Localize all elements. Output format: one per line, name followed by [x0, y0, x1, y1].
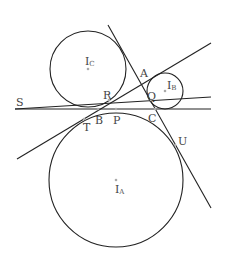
center-label-ib: IB	[167, 79, 177, 92]
point-ib	[164, 90, 167, 93]
circles-group	[49, 31, 183, 247]
label-s: S	[16, 96, 24, 109]
point-t	[83, 118, 86, 121]
point-u	[174, 144, 177, 147]
label-q: Q	[147, 90, 156, 103]
point-ia	[115, 179, 118, 182]
label-c: C	[148, 112, 156, 125]
label-u: U	[178, 135, 187, 148]
label-t: T	[83, 121, 91, 134]
geometry-diagram: SRBPTAQCU ICIBIA	[0, 0, 226, 262]
label-p: P	[113, 114, 121, 127]
center-label-ia: IA	[115, 183, 125, 196]
point-p	[115, 108, 118, 111]
label-a: A	[139, 67, 149, 80]
line-SQ	[15, 97, 211, 109]
label-b: B	[95, 114, 103, 127]
center-label-ic: IC	[85, 55, 95, 68]
point-c	[154, 108, 157, 111]
point-ic	[87, 68, 90, 71]
label-r: R	[103, 89, 112, 102]
point-b	[97, 108, 100, 111]
